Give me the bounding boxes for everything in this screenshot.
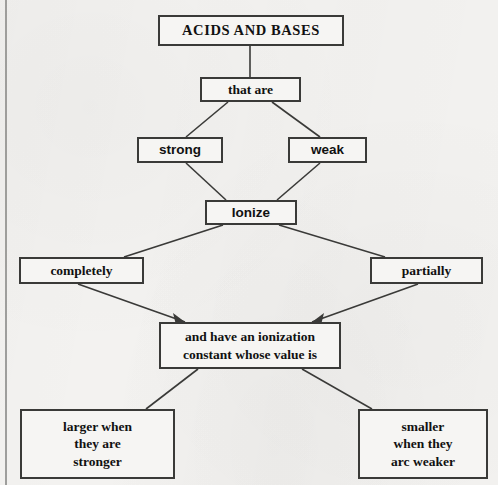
node-weak-label: weak [311,141,344,158]
edge-constant-smaller [302,369,372,409]
edge-that-are-strong [186,102,228,137]
node-ionization-constant-label: and have an ionization constant whose va… [183,328,317,363]
node-smaller-when-weaker: smaller when they arc weaker [358,409,488,479]
edge-that-are-weak [272,102,320,137]
node-strong: strong [137,137,223,163]
node-that-are: that are [200,77,301,102]
edge-strong-ionize [186,163,226,200]
node-ionization-constant: and have an ionization constant whose va… [159,322,341,369]
node-ionize: Ionize [205,200,297,225]
node-larger-when-stronger: larger when they are stronger [20,409,175,479]
node-partially-label: partially [402,262,452,279]
edge-partially-constant [312,284,418,322]
edge-ionize-partially [279,225,385,257]
node-weak: weak [288,137,367,163]
edge-completely-constant [78,284,185,322]
node-acids-and-bases: ACIDS AND BASES [158,15,344,46]
node-ionize-label: Ionize [232,204,270,221]
node-partially: partially [370,257,483,284]
node-that-are-label: that are [228,81,273,98]
node-smaller-when-weaker-label: smaller when they arc weaker [391,418,455,470]
node-completely: completely [19,257,144,284]
node-larger-when-stronger-label: larger when they are stronger [63,418,132,470]
edge-weak-ionize [277,163,320,200]
edge-constant-larger [146,369,198,409]
edge-ionize-completely [124,225,223,257]
node-completely-label: completely [50,262,112,279]
node-acids-and-bases-label: ACIDS AND BASES [182,21,320,40]
node-strong-label: strong [159,141,201,158]
concept-map-page: ACIDS AND BASES that are strong weak Ion… [0,0,498,485]
